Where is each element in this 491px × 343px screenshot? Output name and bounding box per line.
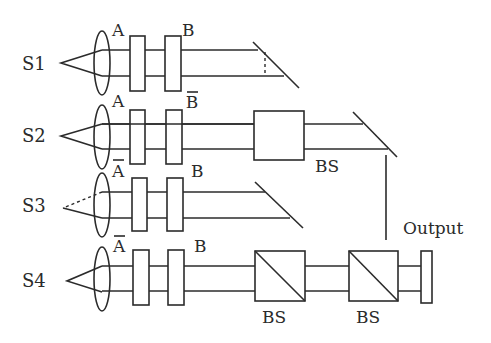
source-cone-s4 (67, 266, 102, 292)
lens-s1 (94, 31, 110, 95)
gate-b-label-s3: B (191, 161, 204, 181)
bs-label-s2: BS (315, 156, 339, 176)
row-s3: S3 A B (22, 160, 303, 237)
source-label-s3: S3 (22, 195, 46, 216)
mirror-s3 (255, 182, 303, 228)
gate-a-label-s2: A (111, 91, 125, 111)
gate-b-s1 (165, 36, 181, 91)
gate-a-s1 (130, 36, 145, 91)
lens-s2 (94, 105, 110, 169)
source-cone-bottom-s3 (63, 208, 102, 218)
bs1-label-s4: BS (262, 307, 286, 327)
gate-b-s4 (168, 250, 184, 305)
source-cone-s1 (61, 50, 102, 76)
lens-s4 (94, 247, 110, 311)
optical-logic-diagram: S1 A B S2 A B BS S3 (0, 0, 491, 343)
lens-s3 (94, 173, 110, 237)
gate-b-label-s4: B (194, 236, 207, 256)
source-cone-s2 (61, 124, 102, 149)
output-label: Output (403, 218, 464, 238)
mirror-s2 (353, 112, 397, 157)
gate-a-label-s4: A (112, 236, 126, 256)
gate-a-label-s3: A (111, 161, 125, 181)
gate-b-label-s2: B (186, 92, 199, 112)
bs2-label-s4: BS (356, 307, 380, 327)
source-label-s2: S2 (22, 125, 46, 146)
beam-splitter-s2 (254, 111, 304, 160)
gate-b-s3 (167, 178, 183, 231)
source-cone-top-s3 (63, 192, 102, 208)
gate-a-s2 (130, 110, 145, 164)
row-s1: S1 A B (22, 20, 299, 95)
gate-a-s4 (133, 250, 149, 305)
mirror-s1 (253, 42, 299, 88)
row-s4: S4 A B BS BS (22, 236, 432, 327)
gate-b-label-s1: B (182, 20, 195, 40)
gate-a-label-s1: A (111, 20, 125, 40)
gate-a-s3 (132, 178, 147, 231)
source-label-s1: S1 (22, 53, 46, 74)
source-label-s4: S4 (22, 270, 46, 291)
gate-b-s2 (166, 110, 182, 164)
output-detector (421, 251, 432, 303)
